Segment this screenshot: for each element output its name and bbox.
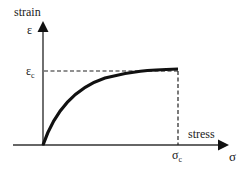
x-axis-arrow-icon	[218, 140, 229, 151]
x-axis-label: stress	[188, 127, 215, 141]
strain-stress-diagram: strain ε εc stress σ σc	[0, 0, 246, 169]
x-axis-symbol: σ	[229, 149, 236, 164]
y-axis	[38, 21, 49, 146]
critical-strain-label: εc	[26, 64, 35, 80]
critical-stress-label: σc	[172, 148, 182, 164]
y-axis-label: strain	[14, 5, 41, 19]
y-axis-arrow-icon	[38, 21, 49, 32]
y-axis-symbol: ε	[27, 23, 32, 37]
strain-curve	[43, 69, 178, 145]
